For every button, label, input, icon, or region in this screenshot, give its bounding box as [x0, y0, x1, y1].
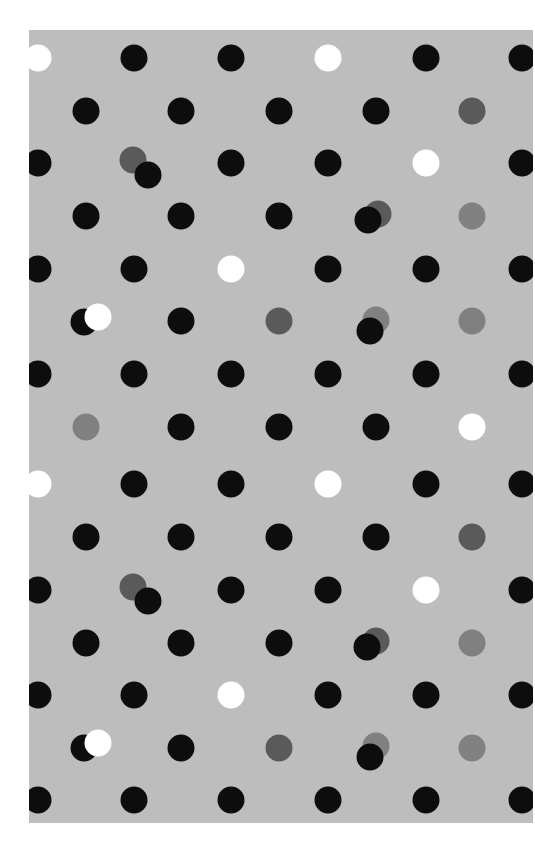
black-dot	[121, 471, 148, 498]
black-dot	[168, 414, 195, 441]
black-dot	[509, 787, 534, 814]
black-dot	[168, 98, 195, 125]
black-dot	[121, 45, 148, 72]
black-dot	[135, 588, 162, 615]
black-dot	[509, 256, 534, 283]
white-dot	[413, 577, 440, 604]
black-dot	[509, 577, 534, 604]
black-dot	[135, 162, 162, 189]
gray-dot	[459, 308, 486, 335]
black-dot	[73, 524, 100, 551]
gray-dot	[459, 735, 486, 762]
black-dot	[218, 45, 245, 72]
black-dot	[363, 98, 390, 125]
black-dot	[29, 150, 52, 177]
black-dot	[266, 98, 293, 125]
white-dot	[315, 471, 342, 498]
black-dot	[218, 471, 245, 498]
black-dot	[315, 682, 342, 709]
black-dot	[29, 256, 52, 283]
black-dot	[29, 787, 52, 814]
black-dot	[168, 630, 195, 657]
black-dot	[73, 630, 100, 657]
black-dot	[354, 634, 381, 661]
black-dot	[413, 787, 440, 814]
black-dot	[266, 630, 293, 657]
black-dot	[315, 361, 342, 388]
gray-dot	[459, 203, 486, 230]
black-dot	[218, 787, 245, 814]
black-dot	[315, 256, 342, 283]
black-dot	[509, 361, 534, 388]
black-dot	[266, 414, 293, 441]
darkgray-dot	[266, 735, 293, 762]
black-dot	[29, 577, 52, 604]
black-dot	[29, 361, 52, 388]
gray-dot	[73, 414, 100, 441]
white-dot	[218, 682, 245, 709]
black-dot	[413, 45, 440, 72]
black-dot	[121, 682, 148, 709]
black-dot	[357, 318, 384, 345]
white-dot	[85, 730, 112, 757]
black-dot	[315, 787, 342, 814]
black-dot	[266, 524, 293, 551]
white-dot	[413, 150, 440, 177]
white-dot	[218, 256, 245, 283]
black-dot	[73, 98, 100, 125]
black-dot	[168, 735, 195, 762]
black-dot	[509, 45, 534, 72]
black-dot	[509, 150, 534, 177]
black-dot	[218, 150, 245, 177]
black-dot	[315, 150, 342, 177]
gray-dot	[459, 630, 486, 657]
white-dot	[459, 414, 486, 441]
black-dot	[121, 256, 148, 283]
black-dot	[29, 682, 52, 709]
darkgray-dot	[459, 98, 486, 125]
black-dot	[315, 577, 342, 604]
black-dot	[509, 682, 534, 709]
black-dot	[266, 203, 293, 230]
black-dot	[218, 577, 245, 604]
black-dot	[509, 471, 534, 498]
black-dot	[168, 308, 195, 335]
black-dot	[363, 524, 390, 551]
black-dot	[363, 414, 390, 441]
white-dot	[85, 304, 112, 331]
black-dot	[168, 203, 195, 230]
white-dot	[29, 45, 52, 72]
white-dot	[29, 471, 52, 498]
black-dot	[413, 471, 440, 498]
black-dot	[121, 787, 148, 814]
black-dot	[413, 256, 440, 283]
black-dot	[413, 682, 440, 709]
darkgray-dot	[459, 524, 486, 551]
white-dot	[315, 45, 342, 72]
dot-pattern-board	[29, 30, 533, 823]
black-dot	[168, 524, 195, 551]
black-dot	[218, 361, 245, 388]
black-dot	[413, 361, 440, 388]
black-dot	[357, 744, 384, 771]
black-dot	[73, 203, 100, 230]
darkgray-dot	[266, 308, 293, 335]
black-dot	[121, 361, 148, 388]
black-dot	[355, 207, 382, 234]
